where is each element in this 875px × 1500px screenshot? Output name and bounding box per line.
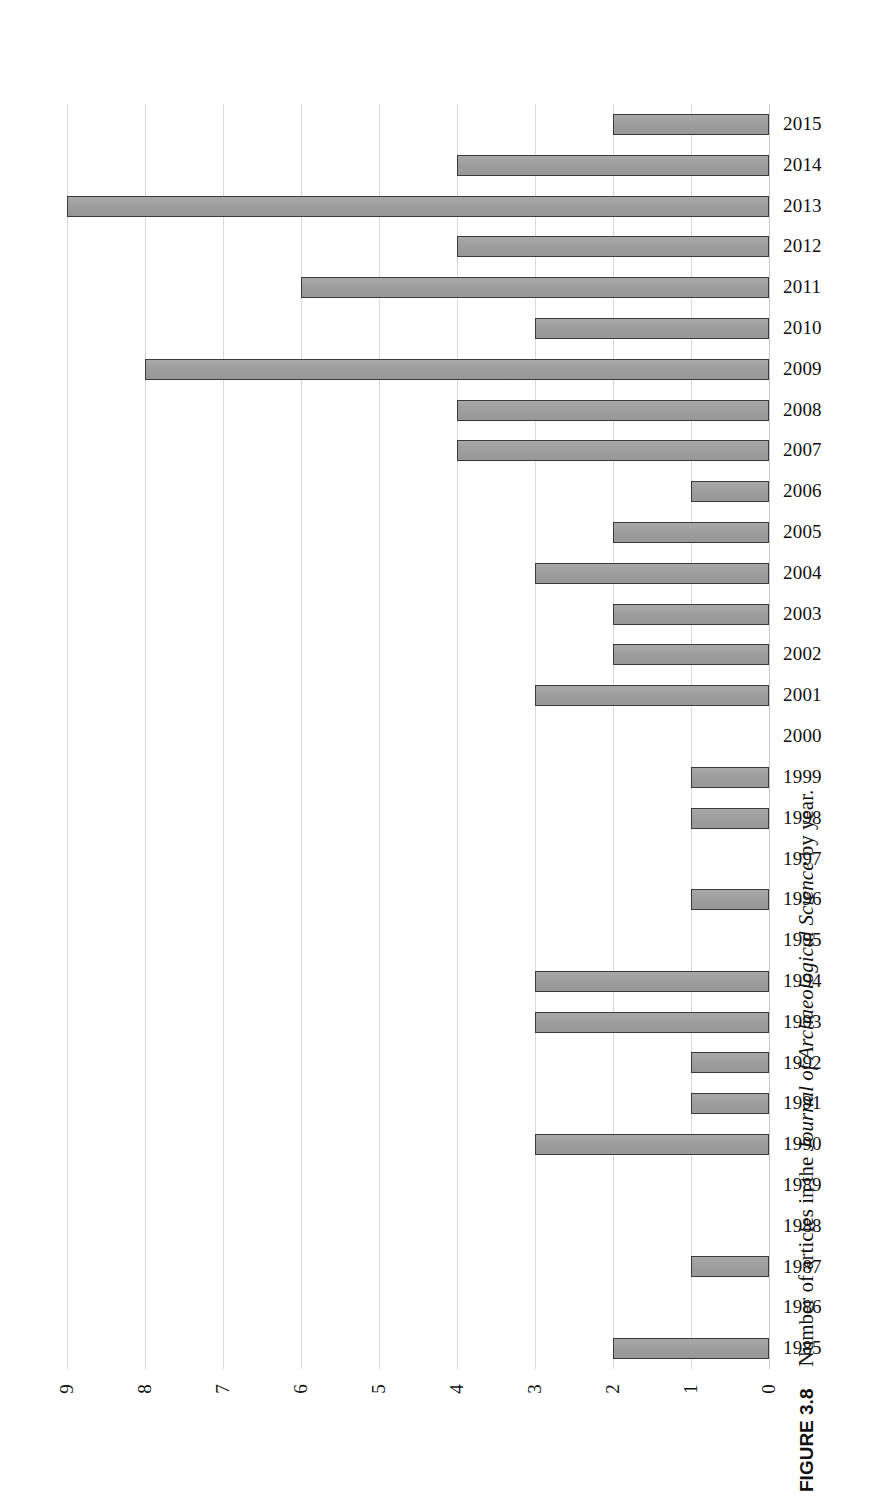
bar-2008[interactable] <box>457 400 769 421</box>
bar-row <box>67 226 769 267</box>
bar-row <box>67 430 769 471</box>
bar-row <box>67 104 769 145</box>
figure-container: 2015201420132012201120102009200820072006… <box>0 0 875 1500</box>
bar-1991[interactable] <box>691 1093 769 1114</box>
bar-2014[interactable] <box>457 155 769 176</box>
x-tick-label-0: 0 <box>758 1376 780 1402</box>
x-axis-tick-labels: 9876543210 <box>67 1378 769 1418</box>
bar-row <box>67 349 769 390</box>
bar-1990[interactable] <box>535 1134 769 1155</box>
bar-row <box>67 716 769 757</box>
bar-1994[interactable] <box>535 971 769 992</box>
bar-row <box>67 186 769 227</box>
bar-2005[interactable] <box>613 522 769 543</box>
bar-2004[interactable] <box>535 563 769 584</box>
x-tick-label-7: 7 <box>212 1376 234 1402</box>
bar-row <box>67 1165 769 1206</box>
x-tick-label-8: 8 <box>134 1376 156 1402</box>
bar-1999[interactable] <box>691 767 769 788</box>
bar-row <box>67 634 769 675</box>
bar-1985[interactable] <box>613 1338 769 1359</box>
caption-journal-title: Journal of Archaeological Science <box>794 861 818 1151</box>
bar-row <box>67 512 769 553</box>
bar-series <box>67 104 769 1369</box>
bar-row <box>67 798 769 839</box>
bar-1998[interactable] <box>691 808 769 829</box>
caption-text-after: by year. <box>794 790 818 862</box>
bar-2013[interactable] <box>67 196 769 217</box>
bar-row <box>67 1328 769 1369</box>
figure-caption: FIGURE 3.8Number of articles in the Jour… <box>829 72 873 1492</box>
x-tick-label-2: 2 <box>602 1376 624 1402</box>
bar-row <box>67 308 769 349</box>
bar-row <box>67 471 769 512</box>
x-tick-label-9: 9 <box>56 1376 78 1402</box>
caption-text-before: Number of articles in the <box>794 1151 818 1366</box>
bar-2012[interactable] <box>457 236 769 257</box>
x-tick-label-6: 6 <box>290 1376 312 1402</box>
bar-2006[interactable] <box>691 481 769 502</box>
bar-1987[interactable] <box>691 1256 769 1277</box>
bar-row <box>67 1287 769 1328</box>
bar-2007[interactable] <box>457 440 769 461</box>
x-tick-label-5: 5 <box>368 1376 390 1402</box>
gridline-0 <box>769 104 770 1369</box>
bar-row <box>67 145 769 186</box>
x-tick-label-1: 1 <box>680 1376 702 1402</box>
bar-2001[interactable] <box>535 685 769 706</box>
bar-row <box>67 879 769 920</box>
bar-1996[interactable] <box>691 889 769 910</box>
bar-row <box>67 594 769 635</box>
bar-1993[interactable] <box>535 1012 769 1033</box>
bar-2003[interactable] <box>613 604 769 625</box>
bar-row <box>67 1206 769 1247</box>
bar-row <box>67 839 769 880</box>
bar-2015[interactable] <box>613 114 769 135</box>
bar-row <box>67 553 769 594</box>
bar-row <box>67 1043 769 1084</box>
x-tick-label-4: 4 <box>446 1376 468 1402</box>
bar-2010[interactable] <box>535 318 769 339</box>
bar-row <box>67 1247 769 1288</box>
bar-row <box>67 1124 769 1165</box>
figure-number: FIGURE 3.8 <box>796 1389 817 1492</box>
bar-row <box>67 390 769 431</box>
bar-row <box>67 267 769 308</box>
bar-row <box>67 1083 769 1124</box>
plot-area <box>67 104 769 1369</box>
bar-row <box>67 675 769 716</box>
bar-1992[interactable] <box>691 1052 769 1073</box>
bar-2009[interactable] <box>145 359 769 380</box>
bar-row <box>67 961 769 1002</box>
bar-2002[interactable] <box>613 644 769 665</box>
bar-2011[interactable] <box>301 277 769 298</box>
bar-row <box>67 1002 769 1043</box>
bar-row <box>67 757 769 798</box>
x-tick-label-3: 3 <box>524 1376 546 1402</box>
bar-row <box>67 920 769 961</box>
